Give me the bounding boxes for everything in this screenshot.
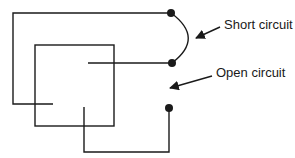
short-circuit-label: Short circuit <box>224 17 293 32</box>
circuit-diagram: Short circuit Open circuit <box>0 0 295 158</box>
short-circuit-arrow <box>196 27 220 38</box>
outer-wire <box>13 13 171 104</box>
terminal-dot-top <box>167 9 175 17</box>
inner-rectangle <box>35 45 114 126</box>
terminal-dot-middle <box>168 59 176 67</box>
terminal-dot-bottom <box>165 104 173 112</box>
short-circuit-arc <box>171 13 188 63</box>
open-circuit-label: Open circuit <box>216 65 286 80</box>
bottom-wire <box>84 107 169 152</box>
open-circuit-arrow <box>170 76 212 88</box>
